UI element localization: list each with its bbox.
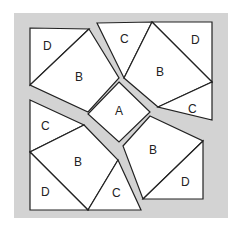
label-br-d: D [181,175,190,189]
puzzle-diagram: D B C D B C A C B D C B D [0,0,242,228]
label-bl-b: B [74,155,82,169]
label-tr-c2: C [188,102,197,116]
label-bl-c: C [41,119,50,133]
label-tr-c: C [120,32,129,46]
label-br-b: B [149,143,157,157]
label-tl-b: B [75,70,83,84]
label-tl-d: D [43,39,52,53]
label-tr-b: B [156,65,164,79]
label-bl-c2: C [112,186,121,200]
label-a: A [115,104,123,118]
label-bl-d: D [41,185,50,199]
label-tr-d: D [191,33,200,47]
